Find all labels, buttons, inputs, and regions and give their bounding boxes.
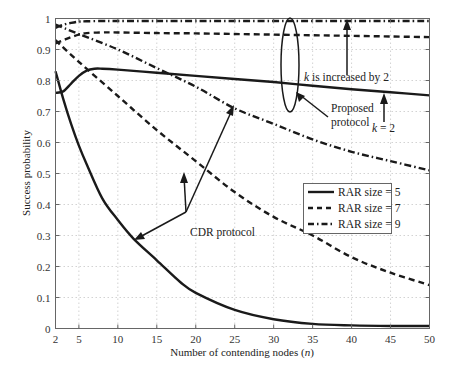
legend: RAR size = 5 RAR size = 7 RAR size = 9: [304, 184, 401, 234]
x-axis-ticks: 25101520253035404550: [53, 19, 436, 345]
arrow-head-icon: [380, 93, 388, 104]
x-tick-label: 5: [76, 333, 82, 345]
x-tick-label: 45: [385, 333, 397, 345]
y-tick-label: 0.4: [37, 199, 51, 211]
y-tick-label: 0.5: [37, 168, 51, 180]
legend-label-rar-9: RAR size = 9: [338, 218, 401, 230]
y-tick-label: 0.8: [37, 75, 51, 87]
y-tick-label: 0: [45, 323, 51, 335]
arrow-head-icon: [134, 232, 145, 240]
x-axis-label: Number of contending nodes (n): [170, 346, 314, 359]
annotation-k-increased: k is increased by 2: [304, 71, 389, 84]
arrow-head-icon: [180, 172, 188, 183]
y-tick-label: 0.7: [37, 106, 51, 118]
series-curve: [56, 21, 430, 28]
annotation-protocol: protocol: [331, 116, 369, 129]
x-tick-label: 15: [151, 333, 163, 345]
proposed-group-ellipse: [281, 18, 299, 112]
x-tick-label: 40: [346, 333, 358, 345]
success-probability-chart: 25101520253035404550 00.10.20.30.40.50.6…: [0, 0, 454, 377]
annotation-cdr-protocol: CDR protocol: [190, 226, 255, 239]
x-tick-label: 35: [307, 333, 319, 345]
x-tick-label: 20: [190, 333, 202, 345]
annotation-proposed: Proposed: [331, 102, 374, 115]
y-tick-label: 0.9: [37, 44, 51, 56]
y-tick-label: 0.6: [37, 137, 51, 149]
series-curve: [56, 32, 430, 43]
y-tick-label: 0.2: [37, 261, 51, 273]
legend-label-rar-7: RAR size = 7: [338, 202, 401, 214]
x-tick-label: 30: [268, 333, 280, 345]
y-tick-label: 0.3: [37, 230, 51, 242]
x-tick-label: 25: [229, 333, 241, 345]
grid-lines: [56, 19, 430, 329]
x-tick-label: 50: [424, 333, 436, 345]
legend-label-rar-5: RAR size = 5: [338, 186, 401, 198]
y-tick-label: 1: [45, 13, 51, 25]
x-tick-label: 10: [112, 333, 124, 345]
y-tick-label: 0.1: [37, 292, 51, 304]
annotation-k-equals-2: k = 2: [372, 122, 395, 134]
y-axis-label: Success probability: [20, 130, 32, 216]
series-curve: [56, 25, 430, 171]
x-tick-label: 2: [53, 333, 59, 345]
